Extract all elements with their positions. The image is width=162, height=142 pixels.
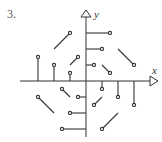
arrowhead-icon: [68, 31, 71, 34]
arrowhead-icon: [76, 55, 79, 58]
arrowhead-icon: [36, 55, 39, 58]
x-axis-arrowhead-icon: [150, 76, 158, 86]
arrowhead-icon: [60, 127, 63, 130]
arrowhead-icon: [100, 87, 103, 90]
arrowhead-icon: [116, 95, 119, 98]
x-axis-label: x: [151, 64, 157, 76]
vector-arrow: [54, 33, 70, 49]
arrowhead-icon: [100, 127, 103, 130]
arrowhead-icon: [68, 111, 71, 114]
arrowhead-icon: [132, 63, 135, 66]
arrowhead-icon: [100, 47, 103, 50]
arrowhead-icon: [52, 63, 55, 66]
arrowhead-icon: [108, 31, 111, 34]
vector-arrow: [38, 97, 54, 113]
arrowhead-icon: [68, 71, 71, 74]
arrowhead-icon: [60, 87, 63, 90]
axes: [20, 10, 158, 137]
arrowhead-icon: [76, 95, 79, 98]
arrowhead-icon: [132, 103, 135, 106]
arrowhead-icon: [108, 71, 111, 74]
vector-arrow: [102, 113, 118, 129]
y-axis-label: y: [93, 8, 99, 20]
vector-field-diagram: x y: [0, 0, 162, 142]
vector-arrow: [118, 49, 134, 65]
arrowhead-icon: [92, 63, 95, 66]
y-axis-arrowhead-icon: [81, 10, 91, 17]
arrowhead-icon: [36, 95, 39, 98]
arrowhead-icon: [92, 103, 95, 106]
